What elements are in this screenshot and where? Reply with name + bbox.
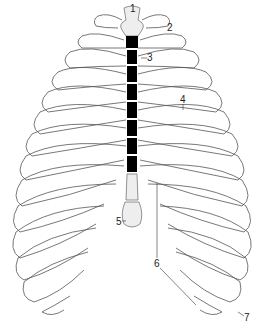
- label-2: 2: [167, 23, 173, 33]
- label-7: 7: [244, 313, 250, 323]
- label-4: 4: [180, 95, 186, 105]
- ribs-left: [13, 15, 126, 315]
- label-3: 3: [147, 53, 153, 63]
- sternum-body: [126, 36, 138, 200]
- label-1: 1: [130, 4, 136, 14]
- label-6: 6: [154, 259, 160, 269]
- ribs-right: [138, 15, 251, 315]
- rib-cage-illustration: [0, 0, 265, 333]
- label-5: 5: [116, 217, 122, 227]
- xiphoid-process: [122, 202, 142, 227]
